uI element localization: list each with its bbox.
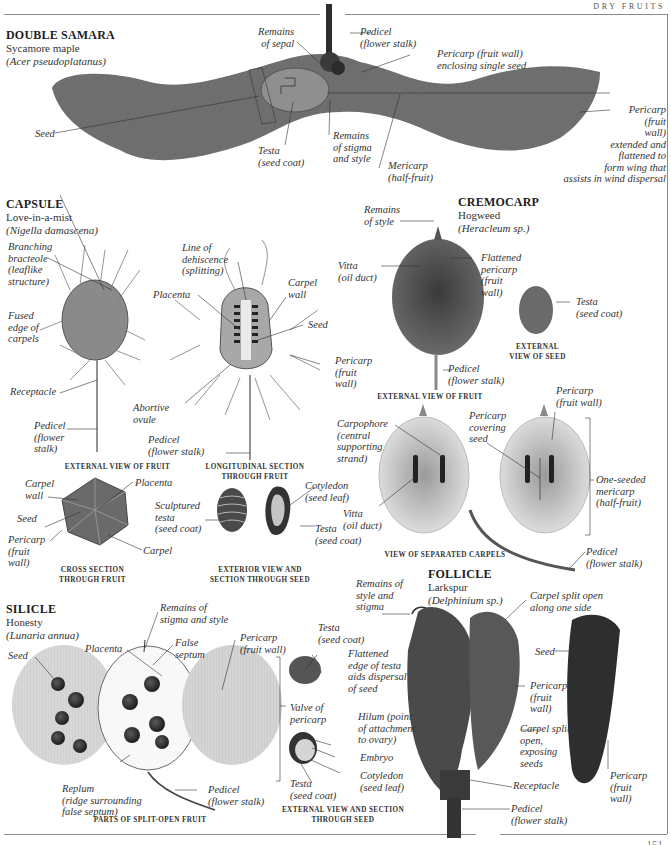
label-seed: Seed bbox=[535, 646, 555, 658]
label-pericarp-enclosing-seed: Pericarp (fruit wall) enclosing single s… bbox=[437, 48, 526, 71]
right-border-rule bbox=[667, 14, 668, 834]
label-cotyledon: Cotyledon (seed leaf) bbox=[305, 480, 349, 503]
label-fused-edge: Fused edge of carpels bbox=[8, 310, 39, 345]
latin-name-text: (Nigella damascena) bbox=[6, 224, 98, 236]
label-one-seeded-mericarp: One-seeded mericarp (half-fruit) bbox=[596, 474, 646, 509]
label-carpel-split-exposing: Carpel split open, exposing seeds bbox=[520, 723, 570, 769]
label-pericarp-mid: Pericarp (fruit wall) bbox=[530, 680, 567, 715]
label-cs-carpel-wall: Carpel wall bbox=[25, 478, 54, 501]
caption-external-seed: EXTERNAL VIEW OF SEED bbox=[505, 342, 570, 362]
label-remains-stigma-style: Remains of stigma and style bbox=[160, 602, 228, 625]
bottom-rule-left bbox=[4, 834, 476, 835]
label-cotyledon: Cotyledon (seed leaf) bbox=[360, 770, 404, 793]
capsule-cross-section-illustration bbox=[62, 478, 128, 545]
common-name: Honesty bbox=[6, 616, 43, 628]
top-rule-left bbox=[4, 14, 320, 15]
label-carpel-wall: Carpel wall bbox=[288, 277, 317, 300]
common-name: Larkspur bbox=[428, 581, 468, 593]
fruit-type-title: DOUBLE SAMARA bbox=[6, 28, 115, 43]
fruit-type-title: SILICLE bbox=[6, 602, 56, 617]
label-pedicel: Pedicel (flower stalk) bbox=[448, 363, 504, 386]
bottom-rule-right bbox=[500, 834, 667, 835]
double-samara-illustration bbox=[52, 4, 600, 160]
label-testa: Testa (seed coat) bbox=[576, 296, 622, 319]
label-hilum: Hilum (point of attachment to ovary) bbox=[358, 711, 415, 746]
label-cs-carpel: Carpel bbox=[143, 545, 172, 557]
latin-name-text: (Heracleum sp.) bbox=[458, 222, 529, 234]
label-pericarp: Pericarp (fruit wall) bbox=[335, 355, 372, 390]
section-header-title: DRY FRUITS bbox=[593, 2, 665, 11]
label-embryo: Embryo bbox=[360, 752, 393, 764]
label-pedicel: Pedicel (flower stalk) bbox=[511, 803, 567, 826]
top-rule-right bbox=[345, 14, 667, 15]
label-testa: Testa (seed coat) bbox=[258, 145, 304, 168]
caption-split-open-fruit: PARTS OF SPLIT-OPEN FRUIT bbox=[75, 815, 225, 825]
caption-external-seed: EXTERNAL VIEW AND SECTION THROUGH SEED bbox=[278, 805, 408, 825]
label-pericarp-wing: Pericarp (fruit wall) extended and flatt… bbox=[538, 104, 666, 185]
label-cs-seed: Seed bbox=[17, 513, 37, 525]
label-seed: Seed bbox=[308, 319, 328, 331]
label-pericarp: Pericarp (fruit wall) bbox=[240, 632, 286, 655]
fruit-type-title: FOLLICLE bbox=[428, 567, 492, 582]
label-flattened-pericarp: Flattened pericarp (fruit wall) bbox=[481, 252, 521, 298]
label-false-septum: False septum bbox=[175, 637, 205, 660]
label-pedicel-separated: Pedicel (flower stalk) bbox=[586, 546, 642, 569]
label-valve-of-pericarp: Valve of pericarp bbox=[290, 702, 326, 725]
label-carpophore: Carpophore (central supporting strand) bbox=[337, 418, 388, 464]
label-pedicel-external: Pedicel (flower stalk) bbox=[34, 420, 65, 455]
label-pericarp-fruit-wall: Pericarp (fruit wall) bbox=[556, 385, 602, 408]
label-seed: Seed bbox=[35, 128, 55, 140]
label-remains-of-sepal: Remains of sepal bbox=[258, 26, 294, 49]
caption-separated-carpels: VIEW OF SEPARATED CARPELS bbox=[370, 550, 520, 560]
label-placenta: Placenta bbox=[153, 289, 190, 301]
common-name: Hogweed bbox=[458, 209, 500, 221]
page-number: 151 bbox=[647, 838, 664, 845]
label-pericarp-covering-seed: Pericarp covering seed bbox=[469, 410, 506, 445]
label-pericarp-right: Pericarp (fruit wall) bbox=[610, 770, 647, 805]
label-pedicel: Pedicel (flower stalk) bbox=[360, 26, 416, 49]
caption-external-view: EXTERNAL VIEW OF FRUIT bbox=[55, 462, 180, 472]
label-pedicel-longitudinal: Pedicel (flower stalk) bbox=[148, 434, 204, 457]
latin-name: (Heracleum sp.) bbox=[458, 222, 529, 234]
label-remains-style-stigma: Remains of style and stigma bbox=[356, 578, 403, 613]
latin-name: (Acer pseudoplatanus) bbox=[6, 55, 106, 67]
label-remains-of-style: Remains of style bbox=[364, 204, 400, 227]
label-line-of-dehiscence: Line of dehiscence (splitting) bbox=[182, 242, 228, 277]
latin-name: (Delphinium sp.) bbox=[428, 594, 503, 606]
caption-external-fruit: EXTERNAL VIEW OF FRUIT bbox=[365, 392, 495, 402]
label-carpel-split-side: Carpel split open along one side bbox=[530, 590, 603, 613]
caption-cross-section: CROSS SECTION THROUGH FRUIT bbox=[45, 565, 140, 585]
label-seed: Seed bbox=[8, 650, 28, 662]
label-vitta: Vitta (oil duct) bbox=[338, 260, 377, 283]
label-mericarp: Mericarp (half-fruit) bbox=[388, 160, 433, 183]
latin-name-text: (Lunaria annua) bbox=[6, 629, 79, 641]
capsule-seed-illustrations bbox=[217, 487, 290, 535]
label-replum: Replum (ridge surrounding false septum) bbox=[62, 783, 142, 818]
latin-name-text: (Acer pseudoplatanus) bbox=[6, 55, 106, 67]
caption-longitudinal-section: LONGITUDINAL SECTION THROUGH FRUIT bbox=[190, 462, 320, 482]
label-cs-placenta: Placenta bbox=[135, 477, 172, 489]
label-remains-stigma-style: Remains of stigma and style bbox=[333, 130, 372, 165]
latin-name: (Lunaria annua) bbox=[6, 629, 79, 641]
common-name: Love-in-a-mist bbox=[6, 211, 72, 223]
label-flattened-edge: Flattened edge of testa aids dispersal o… bbox=[348, 648, 407, 694]
label-testa-bottom: Testa (seed coat) bbox=[290, 778, 336, 801]
label-pedicel: Pedicel (flower stalk) bbox=[208, 784, 264, 807]
label-cs-pericarp: Pericarp (fruit wall) bbox=[8, 534, 45, 569]
label-branching-bracteole: Branching bracteole (leaflike structure) bbox=[8, 241, 52, 287]
label-placenta: Placenta bbox=[85, 643, 122, 655]
label-vitta-separated: Vitta (oil duct) bbox=[343, 508, 382, 531]
label-abortive-ovule: Abortive ovule bbox=[133, 402, 169, 425]
latin-name: (Nigella damascena) bbox=[6, 224, 98, 236]
label-receptacle: Receptacle bbox=[10, 386, 56, 398]
caption-exterior-seed: EXTERIOR VIEW AND SECTION THROUGH SEED bbox=[200, 565, 320, 585]
fruit-type-title: CAPSULE bbox=[6, 197, 63, 212]
label-sculptured-testa: Sculptured testa (seed coat) bbox=[155, 500, 201, 535]
common-name: Sycamore maple bbox=[6, 42, 80, 54]
leader-lines bbox=[35, 33, 610, 809]
label-receptacle: Receptacle bbox=[513, 780, 559, 792]
fruit-type-title: CREMOCARP bbox=[458, 195, 539, 210]
label-testa-top: Testa (seed coat) bbox=[318, 622, 364, 645]
latin-name-text: (Delphinium sp.) bbox=[428, 594, 503, 606]
